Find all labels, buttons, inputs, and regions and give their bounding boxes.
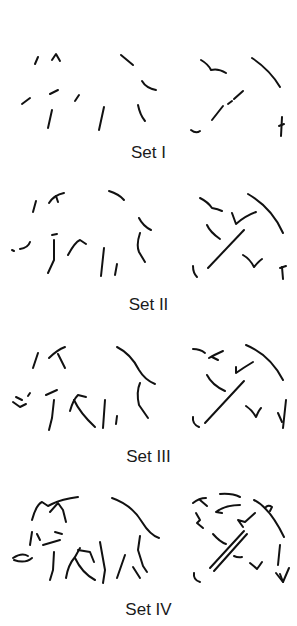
set-4-label: Set IV — [0, 600, 297, 620]
umbrella-fragments — [191, 58, 284, 136]
set-2-label: Set II — [0, 295, 297, 315]
set-1-drawings — [0, 0, 297, 140]
set-3-label: Set III — [0, 447, 297, 467]
set-4-panel: Set IV — [0, 470, 297, 626]
elephant-fragments — [12, 191, 151, 276]
umbrella-fragments — [193, 494, 289, 582]
umbrella-fragments — [193, 194, 286, 279]
set-2-panel: Set II — [0, 160, 297, 315]
set-3-drawings — [0, 320, 297, 445]
set-1-panel: Set I — [0, 0, 297, 165]
elephant-fragments — [22, 54, 156, 130]
elephant-fragments — [13, 347, 155, 430]
umbrella-fragments — [193, 345, 286, 428]
set-3-panel: Set III — [0, 320, 297, 470]
set-4-drawings — [0, 470, 297, 595]
set-2-drawings — [0, 160, 297, 290]
elephant-fragments — [13, 497, 159, 583]
